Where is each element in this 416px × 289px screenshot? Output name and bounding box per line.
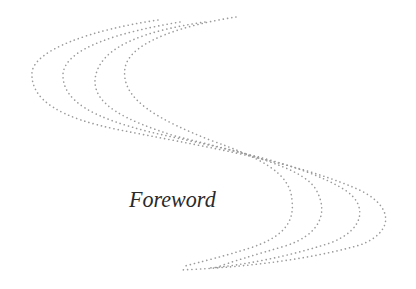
dotted-curve-4	[125, 17, 293, 266]
dotted-curve-3	[95, 22, 322, 268]
foreword-page: Foreword	[0, 0, 416, 289]
dotted-curve-2	[63, 22, 360, 268]
dotted-s-curves-decoration	[0, 0, 416, 289]
page-title: Foreword	[129, 186, 216, 213]
